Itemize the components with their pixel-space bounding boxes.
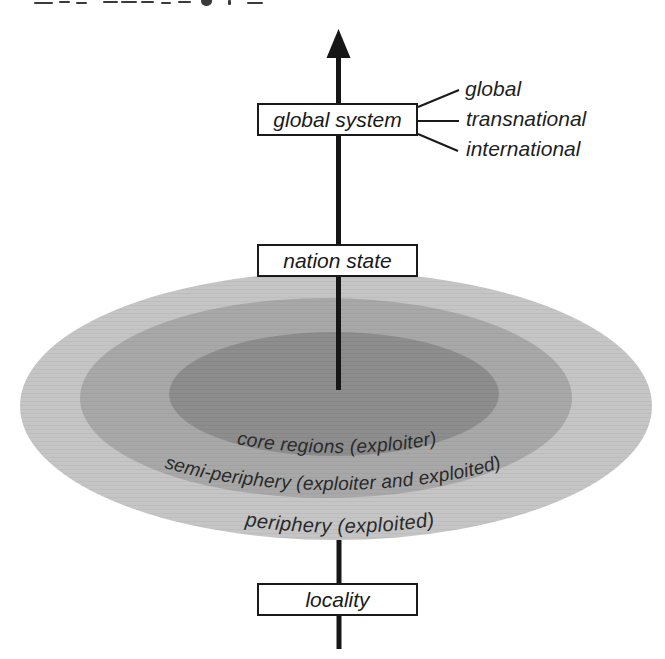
callout-line-global — [418, 90, 459, 107]
global-system-box: global system — [257, 103, 418, 136]
callout-line-international — [418, 134, 458, 151]
diagram-canvas: core regions (exploiter) semi-periphery … — [0, 0, 665, 659]
nation-state-box: nation state — [257, 244, 418, 277]
callout-international: international — [466, 137, 580, 161]
arrowhead-icon — [327, 29, 351, 58]
locality-box: locality — [257, 583, 418, 616]
locality-label: locality — [305, 588, 369, 612]
callout-global: global — [465, 77, 521, 101]
callout-transnational: transnational — [466, 107, 586, 131]
nation-state-label: nation state — [283, 249, 392, 273]
global-system-label: global system — [273, 108, 401, 132]
clipped-text-fragment — [0, 0, 400, 7]
figure-scales-of-global-space: core regions (exploiter) semi-periphery … — [0, 0, 665, 659]
